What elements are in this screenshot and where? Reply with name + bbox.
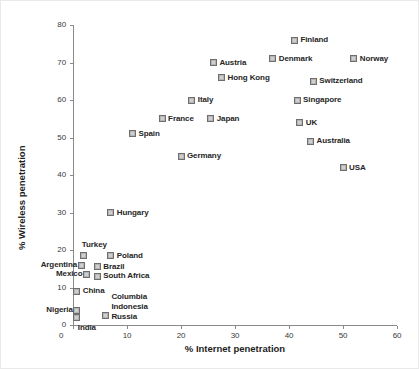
data-point[interactable] [73, 288, 80, 295]
plot-area: 010203040506070801020304050600FinlandNor… [0, 0, 419, 369]
point-label: UK [306, 118, 317, 127]
data-point[interactable] [210, 59, 217, 66]
x-tick-label: 30 [222, 331, 248, 340]
data-point[interactable] [107, 252, 114, 259]
data-point[interactable] [296, 119, 303, 126]
data-point[interactable] [310, 78, 317, 85]
point-label: Mexico [7, 269, 83, 278]
scatter-chart: 010203040506070801020304050600FinlandNor… [0, 0, 419, 369]
point-label: Japan [217, 114, 240, 123]
point-label: Nigeria [0, 305, 73, 314]
point-label: Denmark [279, 54, 313, 63]
y-tick-label: 10 [44, 283, 66, 292]
x-tick [127, 326, 128, 329]
point-label: Turkey [82, 240, 107, 249]
y-axis-title: % Wireless penetration [16, 146, 27, 250]
x-tick-label: 50 [330, 331, 356, 340]
point-label: Columbia [111, 292, 147, 302]
point-label: Hong Kong [228, 73, 270, 82]
data-point[interactable] [83, 271, 90, 278]
point-label: Switzerland [319, 76, 362, 85]
point-label: Finland [300, 35, 328, 44]
point-label: Poland [117, 251, 143, 260]
data-point[interactable] [107, 209, 114, 216]
data-point[interactable] [207, 115, 214, 122]
x-tick-label-zero: 0 [59, 331, 63, 340]
x-tick [343, 326, 344, 329]
data-point[interactable] [294, 97, 301, 104]
y-tick [70, 63, 73, 64]
data-point[interactable] [73, 307, 80, 314]
data-point[interactable] [78, 262, 85, 269]
point-label: Hungary [117, 208, 149, 217]
data-point[interactable] [159, 115, 166, 122]
data-point[interactable] [129, 130, 136, 137]
point-label: Singapore [303, 95, 341, 104]
data-point[interactable] [80, 252, 87, 259]
y-tick [70, 250, 73, 251]
data-point[interactable] [307, 138, 314, 145]
y-tick-label: 50 [44, 133, 66, 142]
y-tick [70, 175, 73, 176]
x-tick [289, 326, 290, 329]
point-label: Russia [111, 312, 147, 322]
point-label: Indonesia [111, 302, 147, 312]
y-tick [70, 25, 73, 26]
x-tick [73, 326, 74, 329]
point-label: Germany [187, 151, 221, 160]
point-label: USA [349, 163, 366, 172]
x-axis-title: % Internet penetration [100, 343, 370, 354]
point-label: Norway [360, 54, 388, 63]
point-label: Brazil [103, 262, 124, 271]
point-label: Austria [219, 58, 246, 67]
data-point[interactable] [102, 312, 109, 319]
point-label: Argentina [1, 260, 77, 269]
x-tick [235, 326, 236, 329]
x-tick-label: 60 [384, 331, 410, 340]
x-tick [181, 326, 182, 329]
y-tick [70, 138, 73, 139]
data-point[interactable] [188, 97, 195, 104]
y-axis-line [73, 25, 74, 325]
point-label: China [83, 286, 105, 295]
point-label: Australia [317, 136, 350, 145]
y-tick-label: 70 [44, 58, 66, 67]
data-point[interactable] [269, 55, 276, 62]
x-tick [397, 326, 398, 329]
point-label: Spain [138, 129, 159, 138]
y-tick-label: 30 [44, 208, 66, 217]
data-point[interactable] [350, 55, 357, 62]
point-label: India [78, 323, 96, 332]
point-label-group: ColumbiaIndonesiaRussia [111, 292, 147, 322]
data-point[interactable] [94, 273, 101, 280]
y-tick-label: 20 [44, 245, 66, 254]
x-tick-label: 20 [168, 331, 194, 340]
data-point[interactable] [73, 314, 80, 321]
x-tick-label: 40 [276, 331, 302, 340]
y-tick [70, 100, 73, 101]
y-tick-label: 80 [44, 20, 66, 29]
data-point[interactable] [178, 153, 185, 160]
data-point[interactable] [340, 164, 347, 171]
y-tick [70, 213, 73, 214]
y-tick-label: 0 [44, 320, 66, 329]
x-tick-label: 10 [114, 331, 140, 340]
data-point[interactable] [94, 263, 101, 270]
point-label: France [168, 114, 194, 123]
data-point[interactable] [218, 74, 225, 81]
point-label: South Africa [103, 271, 149, 280]
data-point[interactable] [291, 37, 298, 44]
point-label: Italy [198, 95, 214, 104]
y-tick-label: 40 [44, 170, 66, 179]
y-tick-label: 60 [44, 95, 66, 104]
